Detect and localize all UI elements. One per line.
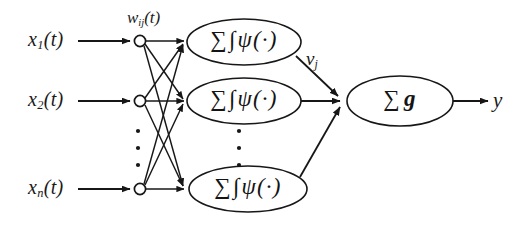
input-node-2 [134,95,145,106]
weight-connections [144,41,184,189]
output-link-3 [300,107,340,177]
output-y: y [493,88,502,112]
hidden-node-3-text: ∑∫ψ(·) [191,174,305,200]
input-2-suffix: (t) [44,88,64,110]
input-node-1 [134,35,145,46]
v-subscript: j [314,58,317,71]
weight-suffix: (t) [144,8,160,27]
hidden-1-sigma: ∑ [210,27,228,52]
hidden-3-sigma: ∑ [214,174,232,199]
hidden-2-sigma: ∑ [210,86,228,111]
hidden-node-2-text: ∑∫ψ(·) [187,86,301,112]
input-label-n: xn(t) [28,176,63,201]
hidden-output-label: vj [306,48,318,72]
hidden-ellipsis-dots [237,129,241,167]
input-nodes [134,35,145,194]
hidden-to-output-links [296,56,340,177]
output-label: y [493,88,502,113]
output-g: g [401,86,417,111]
hidden-2-psi: ψ(·) [237,86,277,111]
input-label-1: x1(t) [28,28,63,53]
input-ellipsis-dot-2 [136,146,140,150]
hidden-ellipsis-dot-2 [237,146,241,150]
network-diagram: x1(t) x2(t) xn(t) wij(t) ∑∫ψ(·) ∑∫ψ(·) ∑… [0,0,521,233]
hidden-1-psi: ψ(·) [237,27,277,52]
output-node-text: ∑g [343,86,457,112]
weight-base: w [127,8,138,27]
input-ellipsis-dot-1 [136,129,140,133]
hidden-ellipsis-dot-3 [237,163,241,167]
input-arrows [78,41,130,189]
weight-label: wij(t) [127,8,160,28]
input-node-n [134,183,145,194]
input-1-suffix: (t) [44,28,64,50]
input-n-suffix: (t) [44,176,64,198]
hidden-3-psi: ψ(·) [241,174,281,199]
hidden-node-1-text: ∑∫ψ(·) [187,27,301,53]
input-ellipsis-dot-3 [136,163,140,167]
input-label-2: x2(t) [28,88,63,113]
output-sigma: ∑ [383,86,401,111]
input-ellipsis-dots [136,129,140,167]
hidden-ellipsis-dot-1 [237,129,241,133]
